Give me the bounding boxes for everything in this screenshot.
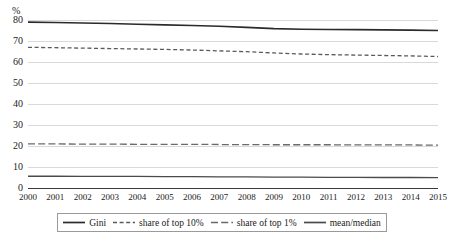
x-tick-label: 2012 — [341, 193, 371, 202]
x-tick-label: 2001 — [40, 193, 70, 202]
series-line — [28, 22, 438, 30]
x-tick-label: 2005 — [150, 193, 180, 202]
legend-line-swatch — [63, 219, 85, 226]
y-tick-label: 80 — [1, 15, 23, 25]
x-tick-label: 2013 — [368, 193, 398, 202]
y-tick-label: 70 — [1, 36, 23, 46]
y-tick-label: 10 — [1, 162, 23, 172]
x-tick-label: 2009 — [259, 193, 289, 202]
x-tick-label: 2007 — [204, 193, 234, 202]
legend-label: Gini — [89, 218, 106, 228]
y-tick-label: 60 — [1, 57, 23, 67]
x-tick-label: 2015 — [423, 193, 452, 202]
series-line — [28, 144, 438, 145]
x-tick-label: 2003 — [95, 193, 125, 202]
x-tick-label: 2002 — [68, 193, 98, 202]
series-line — [28, 176, 438, 177]
plot-area — [28, 20, 438, 188]
x-tick-label: 2006 — [177, 193, 207, 202]
y-tick-label: 40 — [1, 99, 23, 109]
x-axis-line — [28, 188, 438, 189]
legend-label: mean/median — [330, 218, 381, 228]
legend-line-swatch — [304, 219, 326, 226]
legend-line-swatch — [211, 219, 233, 226]
legend-label: share of top 1% — [237, 218, 297, 228]
x-tick-label: 2010 — [286, 193, 316, 202]
legend-entry[interactable]: Gini — [63, 218, 106, 228]
legend-entry[interactable]: share of top 1% — [211, 218, 297, 228]
x-tick-label: 2008 — [232, 193, 262, 202]
y-tick-label: 50 — [1, 78, 23, 88]
series-lines — [28, 20, 438, 188]
y-tick-label: 20 — [1, 141, 23, 151]
x-tick-label: 2014 — [396, 193, 426, 202]
legend-entry[interactable]: mean/median — [304, 218, 381, 228]
legend-line-swatch — [113, 219, 135, 226]
x-tick-label: 2004 — [122, 193, 152, 202]
chart-legend: Ginishare of top 10%share of top 1%mean/… — [57, 213, 387, 232]
x-tick-label: 2000 — [13, 193, 43, 202]
legend-label: share of top 10% — [139, 218, 204, 228]
series-line — [28, 47, 438, 56]
x-tick-label: 2011 — [314, 193, 344, 202]
legend-entry[interactable]: share of top 10% — [113, 218, 204, 228]
y-tick-label: 30 — [1, 120, 23, 130]
